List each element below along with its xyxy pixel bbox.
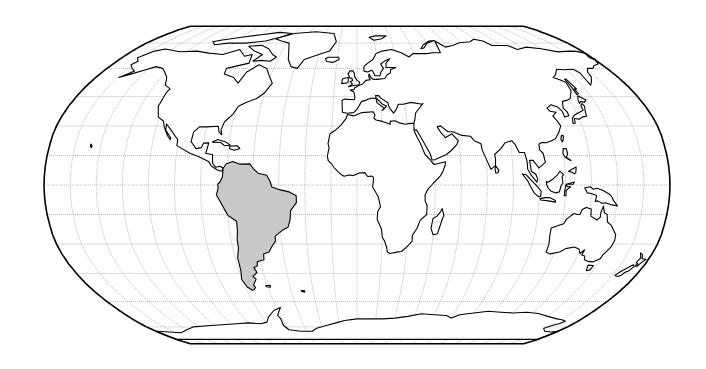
- region-mindanao: [569, 167, 577, 174]
- region-iceland: [326, 57, 340, 62]
- region-antarctica: [156, 308, 565, 340]
- region-taiwan: [561, 135, 564, 141]
- region-south-georgia: [301, 291, 305, 293]
- region-borneo: [547, 171, 564, 193]
- region-svalbard: [369, 36, 386, 40]
- region-sri-lanka: [495, 166, 499, 174]
- graticule-lines: [44, 26, 670, 344]
- region-cuba: [212, 140, 230, 146]
- region-north-america: [119, 49, 272, 171]
- region-falklands: [266, 285, 271, 287]
- region-novaya-zemlya: [421, 41, 435, 49]
- region-philippines-luzon: [563, 149, 571, 161]
- region-tasmania: [586, 265, 593, 271]
- region-new-zealand-south: [615, 265, 634, 277]
- land-masses: [90, 32, 646, 340]
- region-great-britain: [348, 71, 360, 87]
- region-ireland: [342, 77, 349, 83]
- region-hispaniola: [230, 146, 240, 150]
- region-hawaii: [90, 144, 92, 148]
- region-greenland: [276, 32, 337, 69]
- region-baffin-island: [249, 45, 277, 61]
- region-java: [540, 198, 556, 203]
- world-map: [0, 0, 706, 369]
- region-sulawesi: [564, 182, 574, 196]
- region-japan: [572, 104, 586, 124]
- region-australia: [546, 206, 616, 262]
- region-new-guinea: [585, 187, 618, 206]
- region-south-america: [216, 161, 296, 290]
- region-madagascar: [431, 209, 444, 235]
- graticule-grid: [44, 26, 670, 344]
